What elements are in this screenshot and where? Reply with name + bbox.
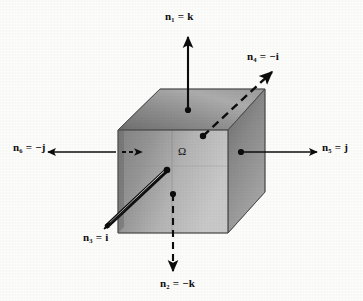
label-n6: n₆ = −j xyxy=(13,142,46,153)
label-n4-text: n₄ = −i xyxy=(247,50,279,62)
label-n3-text: n₃ = i xyxy=(83,231,108,243)
label-n2-text: n₂ = −k xyxy=(160,277,195,289)
label-n1-text: n₁ = k xyxy=(165,10,194,22)
figure-canvas: n₁ = k n₄ = −i n₅ = j n₆ = −j n₃ = i n₂ … xyxy=(0,0,363,301)
cube-front-face xyxy=(118,130,228,233)
label-n3: n₃ = i xyxy=(83,232,108,243)
label-n6-text: n₆ = −j xyxy=(13,141,46,153)
region-label-omega: Ω xyxy=(178,145,186,157)
label-n1: n₁ = k xyxy=(165,11,194,22)
label-n4: n₄ = −i xyxy=(247,51,279,62)
label-n5-text: n₅ = j xyxy=(322,141,348,153)
label-n2: n₂ = −k xyxy=(160,278,195,289)
label-n5: n₅ = j xyxy=(322,142,348,153)
